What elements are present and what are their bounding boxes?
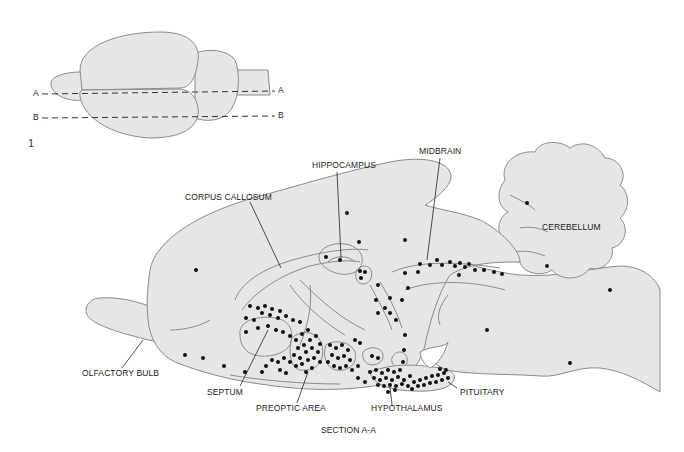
label-olfactory-bulb: OLFACTORY BULB [82, 368, 159, 378]
brain-diagram-figure: .tis { fill: #e6e6e6; stroke: #8a8a8a; s… [0, 0, 684, 452]
cut-label-a-left: A [33, 88, 39, 98]
figure-number: 1 [28, 137, 34, 149]
label-hypothalamus: HYPOTHALAMUS [371, 403, 443, 413]
dorsal-right-hemisphere [80, 89, 198, 138]
label-corpus-callosum: CORPUS CALLOSUM [185, 192, 272, 202]
label-cerebellum: CEREBELLUM [542, 222, 601, 232]
dorsal-left-hemisphere [80, 32, 198, 90]
section-title: SECTION A-A [321, 425, 376, 435]
cut-label-b-right: B [278, 110, 284, 120]
olfactory-bulb-leader [122, 340, 143, 368]
label-hippocampus: HIPPOCAMPUS [312, 160, 376, 170]
label-pituitary: PITUITARY [460, 387, 505, 397]
label-preoptic-area: PREOPTIC AREA [256, 403, 326, 413]
cut-label-a-right: A [278, 85, 284, 95]
cut-label-b-left: B [33, 112, 39, 122]
dorsal-brain-view [42, 32, 275, 138]
label-midbrain: MIDBRAIN [419, 146, 461, 156]
label-septum: SEPTUM [207, 387, 243, 397]
dorsal-cerebellum [195, 50, 238, 120]
